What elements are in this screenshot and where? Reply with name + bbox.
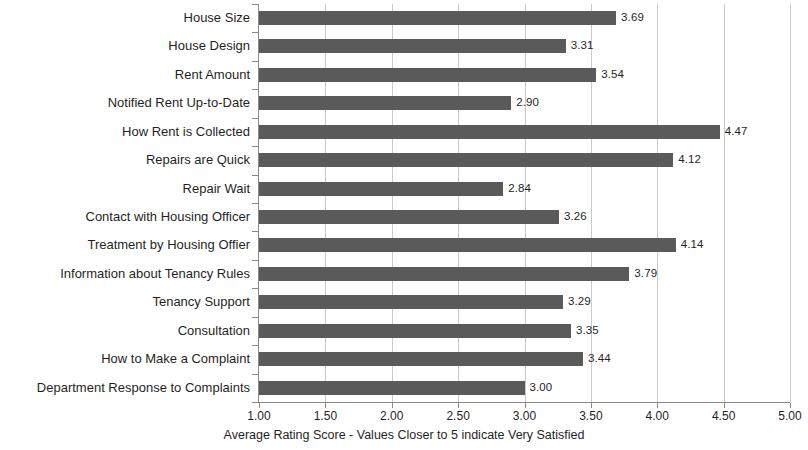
x-axis-tick (259, 403, 260, 408)
category-label: Repair Wait (0, 175, 250, 203)
plot-area: 3.693.313.542.904.474.122.843.264.143.79… (259, 4, 790, 402)
category-label: How to Make a Complaint (0, 345, 250, 373)
category-label: Treatment by Housing Offier (0, 231, 250, 259)
category-label: Repairs are Quick (0, 146, 250, 174)
bar-value-label: 4.14 (681, 237, 704, 252)
y-axis-tick (252, 4, 259, 5)
category-label: Consultation (0, 317, 250, 345)
bar[interactable] (259, 238, 676, 252)
bar-row: 3.79 (259, 260, 790, 288)
y-axis-tick (252, 146, 259, 147)
category-label: Notified Rent Up-to-Date (0, 89, 250, 117)
x-axis-tick-label: 1.00 (247, 409, 270, 423)
x-axis-tick-label: 5.00 (778, 409, 801, 423)
x-axis-tick (525, 403, 526, 408)
y-axis-tick (252, 374, 259, 375)
y-axis-tick (252, 260, 259, 261)
bar-value-label: 3.00 (530, 380, 553, 395)
x-axis-tick (591, 403, 592, 408)
x-axis-tick-label: 4.00 (646, 409, 669, 423)
bar-value-label: 3.69 (621, 10, 644, 25)
bar-row: 3.54 (259, 61, 790, 89)
x-axis-title: Average Rating Score - Values Closer to … (0, 428, 808, 442)
bar[interactable] (259, 68, 596, 82)
bar-row: 3.00 (259, 374, 790, 402)
bar-value-label: 2.90 (516, 95, 539, 110)
bar-value-label: 2.84 (508, 181, 531, 196)
x-axis-tick-label: 2.50 (446, 409, 469, 423)
x-axis-tick-label: 1.50 (314, 409, 337, 423)
bar-row: 3.69 (259, 4, 790, 32)
bar-row: 3.26 (259, 203, 790, 231)
x-axis-tick (724, 403, 725, 408)
x-axis-tick-label: 2.00 (380, 409, 403, 423)
x-axis-tick (325, 403, 326, 408)
bar-value-label: 3.26 (564, 209, 587, 224)
bar[interactable] (259, 352, 583, 366)
category-label: Rent Amount (0, 61, 250, 89)
x-axis-tick-label: 3.00 (513, 409, 536, 423)
bar-chart: House SizeHouse DesignRent AmountNotifie… (0, 0, 808, 450)
bar[interactable] (259, 210, 559, 224)
bar[interactable] (259, 153, 673, 167)
bar-row: 3.29 (259, 288, 790, 316)
category-label: How Rent is Collected (0, 118, 250, 146)
y-axis-tick (252, 402, 259, 403)
x-axis-tick (458, 403, 459, 408)
y-axis-tick (252, 61, 259, 62)
y-axis-tick (252, 32, 259, 33)
bar-value-label: 3.79 (634, 266, 657, 281)
bar-value-label: 3.54 (601, 67, 624, 82)
bar-row: 2.84 (259, 175, 790, 203)
bar-row: 4.14 (259, 231, 790, 259)
category-label: Department Response to Complaints (0, 374, 250, 402)
category-label: House Design (0, 32, 250, 60)
bar-row: 3.35 (259, 317, 790, 345)
x-axis-tick-label: 4.50 (712, 409, 735, 423)
gridline (790, 4, 791, 402)
y-axis-tick (252, 203, 259, 204)
category-label: Tenancy Support (0, 288, 250, 316)
y-axis-tick (252, 288, 259, 289)
bar[interactable] (259, 125, 720, 139)
bar[interactable] (259, 267, 629, 281)
x-axis-tick (790, 403, 791, 408)
x-axis-tick (392, 403, 393, 408)
bar[interactable] (259, 324, 571, 338)
bar-row: 4.47 (259, 118, 790, 146)
bar-value-label: 3.31 (571, 38, 594, 53)
bar-row: 3.44 (259, 345, 790, 373)
category-axis-labels: House SizeHouse DesignRent AmountNotifie… (0, 4, 250, 402)
y-axis-tick (252, 89, 259, 90)
y-axis-tick (252, 118, 259, 119)
y-axis-tick (252, 317, 259, 318)
category-label: House Size (0, 4, 250, 32)
bar-row: 4.12 (259, 146, 790, 174)
bar[interactable] (259, 182, 503, 196)
bar-value-label: 3.29 (568, 294, 591, 309)
bar[interactable] (259, 96, 511, 110)
bar-row: 2.90 (259, 89, 790, 117)
bar[interactable] (259, 11, 616, 25)
x-axis-tick (657, 403, 658, 408)
bar[interactable] (259, 295, 563, 309)
bar-value-label: 4.47 (725, 124, 748, 139)
x-axis-tick-label: 3.50 (579, 409, 602, 423)
category-label: Information about Tenancy Rules (0, 260, 250, 288)
bar[interactable] (259, 39, 566, 53)
bar-value-label: 4.12 (678, 152, 701, 167)
bar-row: 3.31 (259, 32, 790, 60)
bar-value-label: 3.35 (576, 323, 599, 338)
category-label: Contact with Housing Officer (0, 203, 250, 231)
y-axis-tick (252, 345, 259, 346)
bar[interactable] (259, 381, 525, 395)
bar-value-label: 3.44 (588, 351, 611, 366)
y-axis-tick (252, 175, 259, 176)
y-axis-tick (252, 231, 259, 232)
